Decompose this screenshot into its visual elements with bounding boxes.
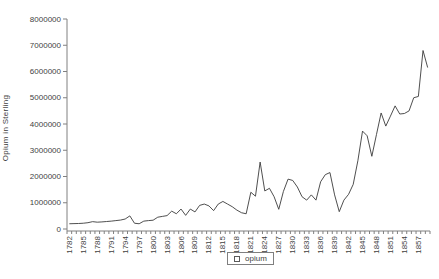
y-tick-label: 5000000 — [30, 93, 62, 102]
x-tick-label: 1839 — [330, 235, 339, 253]
x-tick-label: 1833 — [302, 235, 311, 253]
y-tick-label: 2000000 — [30, 172, 62, 181]
opium-line-chart: 0100000020000003000000400000050000006000… — [0, 0, 439, 279]
legend-series-marker-icon — [234, 256, 240, 262]
x-tick-label: 1848 — [372, 235, 381, 253]
x-tick-label: 1800 — [149, 235, 158, 253]
x-tick-label: 1785 — [79, 235, 88, 253]
chart-canvas: 0100000020000003000000400000050000006000… — [0, 0, 439, 279]
x-tick-label: 1809 — [190, 235, 199, 253]
y-tick-label: 0 — [57, 225, 62, 234]
x-tick-label: 1797 — [135, 235, 144, 253]
x-tick-label: 1830 — [288, 235, 297, 253]
y-tick-label: 1000000 — [30, 198, 62, 207]
x-tick-label: 1857 — [414, 235, 423, 253]
y-tick-label: 7000000 — [30, 41, 62, 50]
x-tick-label: 1842 — [344, 235, 353, 253]
x-tick-label: 1836 — [316, 235, 325, 253]
x-tick-label: 1854 — [400, 235, 409, 253]
x-tick-label: 1845 — [358, 235, 367, 253]
x-tick-label: 1851 — [386, 235, 395, 253]
legend-series-label: opium — [245, 253, 267, 264]
legend-box: opium — [227, 252, 274, 265]
y-tick-label: 6000000 — [30, 67, 62, 76]
series-line-opium — [69, 51, 427, 224]
x-tick-label: 1827 — [274, 235, 283, 253]
y-tick-label: 4000000 — [30, 120, 62, 129]
y-axis-title: Opium in Sterling — [1, 73, 15, 183]
y-tick-label: 3000000 — [30, 146, 62, 155]
x-tick-label: 1794 — [121, 235, 130, 253]
x-tick-label: 1803 — [163, 235, 172, 253]
x-tick-label: 1782 — [65, 235, 74, 253]
x-tick-label: 1791 — [107, 235, 116, 253]
y-tick-label: 8000000 — [30, 15, 62, 24]
x-tick-label: 1812 — [204, 235, 213, 253]
x-tick-label: 1806 — [177, 235, 186, 253]
x-tick-label: 1788 — [93, 235, 102, 253]
